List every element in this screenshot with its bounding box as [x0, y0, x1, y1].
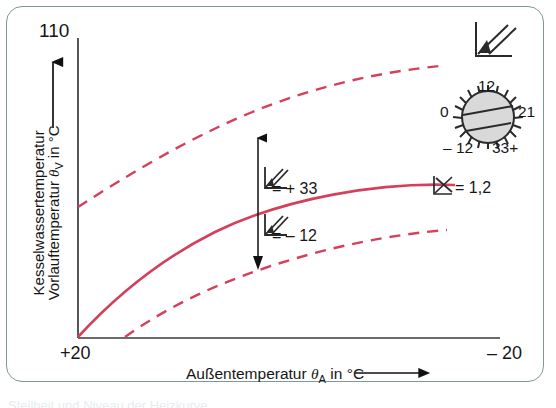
knob-label-top: 12 — [478, 78, 495, 94]
annotation-slope-label: = 1,2 — [455, 180, 491, 196]
x-axis-title-subscript: A — [319, 373, 326, 385]
knob-label-right: 21 — [518, 104, 535, 120]
figure-caption-cropped: Steilheit und Niveau der Heizkurve — [8, 398, 338, 408]
x-axis-left-tick: +20 — [60, 344, 91, 362]
knob-body[interactable] — [462, 91, 514, 143]
x-axis-title-suffix: in °C — [326, 365, 364, 382]
y-axis-title-prefix: Vorlauftemperatur — [45, 177, 62, 300]
annotation-shift-down-label: = – 12 — [272, 228, 317, 244]
x-axis-title-symbol: θ — [311, 365, 319, 382]
y-axis-title-line2: Vorlauftemperatur θV in °C — [46, 88, 65, 338]
knob-label-bottom-right: 33+ — [492, 140, 518, 156]
x-axis-title: Außentemperatur θA in °C — [186, 366, 364, 385]
knob-label-bottom-left: – 12 — [443, 140, 473, 156]
x-axis-title-prefix: Außentemperatur — [186, 365, 311, 382]
knob-label-left: 0 — [440, 104, 449, 120]
annotation-shift-up-label: = + 33 — [272, 181, 317, 197]
curve-heating-main — [78, 185, 455, 337]
y-axis-max-tick: 110 — [39, 21, 69, 40]
parallel-shift-icon — [476, 22, 516, 56]
y-axis-title: Kesselwassertemperatur Vorlauftemperatur… — [31, 88, 65, 338]
y-axis-title-symbol: θ — [46, 170, 62, 177]
x-axis-right-tick: – 20 — [487, 344, 522, 362]
annotation-arrow-down-head — [253, 256, 263, 270]
y-axis-title-suffix: in °C — [45, 125, 62, 162]
heating-curve-figure: 110 Kesselwassertemperatur Vorlauftemper… — [0, 0, 556, 408]
curve-level-minus-12 — [125, 230, 447, 337]
y-axis-title-subscript: V — [53, 162, 65, 169]
